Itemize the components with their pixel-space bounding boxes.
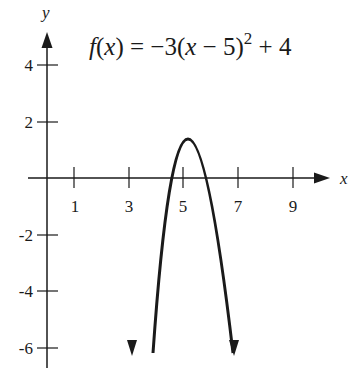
title-x2: x xyxy=(184,33,196,60)
x-tick-label: 1 xyxy=(71,197,80,216)
x-axis-arrow-icon xyxy=(314,173,330,184)
title-minus5: − 5) xyxy=(196,33,243,61)
title-plus4: + 4 xyxy=(252,33,292,60)
title-x: x xyxy=(103,33,115,60)
parabola-graph: x y 1 3 5 7 9 4 2 -2 -4 -6 f(x) = − xyxy=(0,0,359,368)
x-tick-label: 9 xyxy=(289,197,298,216)
svg-text:f(x) = −3(x − 5)2 + 4: f(x) = −3(x − 5)2 + 4 xyxy=(89,29,292,61)
y-tick-label: -6 xyxy=(19,339,33,358)
x-tick-labels: 1 3 5 7 9 xyxy=(71,197,298,216)
y-tick-label: 2 xyxy=(25,113,34,132)
y-axis-arrow-icon xyxy=(42,32,53,48)
left-arrow-icon xyxy=(127,340,137,356)
y-axis-label: y xyxy=(40,3,50,22)
x-tick-label: 5 xyxy=(179,197,188,216)
title-rparen-eq: ) = −3( xyxy=(115,33,185,61)
title-lparen: ( xyxy=(96,33,104,61)
y-tick-label: -2 xyxy=(19,226,33,245)
parabola-curve xyxy=(153,139,233,353)
title-exponent: 2 xyxy=(244,29,253,48)
y-tick-labels: 4 2 -2 -4 -6 xyxy=(19,56,34,358)
x-tick-label: 3 xyxy=(125,197,134,216)
x-axis-label: x xyxy=(339,169,348,188)
equation-title: f(x) = −3(x − 5)2 + 4 xyxy=(89,29,292,61)
y-tick-label: 4 xyxy=(25,56,34,75)
y-tick-label: -4 xyxy=(19,282,34,301)
x-tick-label: 7 xyxy=(234,197,243,216)
right-arrow-icon xyxy=(229,340,239,356)
